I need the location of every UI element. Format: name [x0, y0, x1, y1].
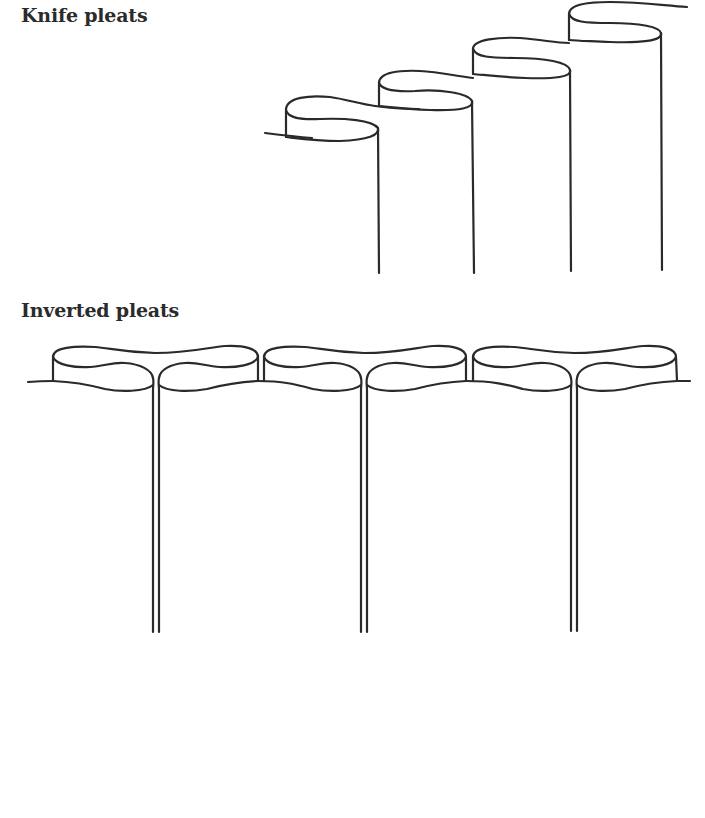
- inverted-fabric-edge-left: [28, 381, 53, 382]
- inverted-pleat-2: [258, 346, 466, 632]
- knife-pleat-3: [473, 38, 571, 271]
- inverted-pleat-1: [53, 346, 258, 632]
- knife-pleat-1: [286, 96, 379, 273]
- knife-pleat-4: [569, 2, 687, 270]
- knife-pleat-2: [375, 71, 474, 273]
- inverted-pleat-3: [466, 346, 677, 631]
- inverted-pleats-illustration: [28, 346, 690, 632]
- knife-pleats-illustration: [265, 2, 687, 273]
- pleats-diagram: [0, 0, 705, 818]
